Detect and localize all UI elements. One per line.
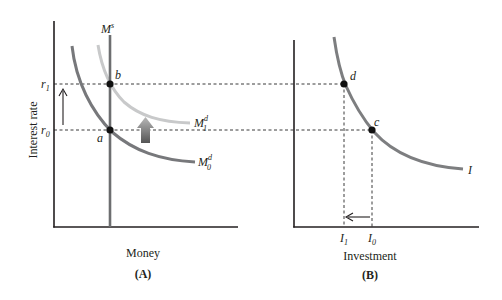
panel-b-caption: (B) — [362, 268, 378, 282]
svg-text:Md0: Md0 — [197, 153, 213, 172]
investment-curve-label: I — [467, 163, 473, 177]
x-axis-label-a: Money — [126, 246, 160, 260]
panel-a-caption: (A) — [135, 267, 152, 281]
investment-demand-curve — [334, 37, 463, 169]
point-d — [340, 80, 347, 87]
svg-text:Ms: Ms — [100, 21, 114, 36]
point-c-label: c — [374, 115, 380, 129]
svg-text:I1: I1 — [339, 231, 348, 247]
svg-text:r1: r1 — [41, 77, 50, 93]
money-demand-m0-curve — [72, 46, 195, 162]
interest-rate-up-arrow — [59, 89, 67, 125]
point-b — [106, 80, 113, 87]
svg-text:Md1: Md1 — [193, 114, 209, 133]
demand-shift-up-arrow — [137, 117, 154, 143]
panel-a: Ms b a Md1 Md0 r1 r0 Interest rate Money… — [26, 21, 372, 281]
money-market-investment-figure: Ms b a Md1 Md0 r1 r0 Interest rate Money… — [0, 0, 502, 300]
point-b-label: b — [115, 68, 121, 82]
svg-text:I0: I0 — [367, 231, 376, 247]
svg-text:r0: r0 — [41, 123, 50, 139]
investment-decrease-left-arrow — [346, 213, 370, 221]
x-axis-label-b: Investment — [343, 249, 397, 263]
point-a-label: a — [97, 131, 103, 145]
panel-b: d c I I1 I0 Investment (B) — [293, 37, 479, 282]
y-axis-label-a: Interest rate — [26, 102, 40, 159]
point-a — [106, 126, 113, 133]
point-d-label: d — [350, 69, 357, 83]
